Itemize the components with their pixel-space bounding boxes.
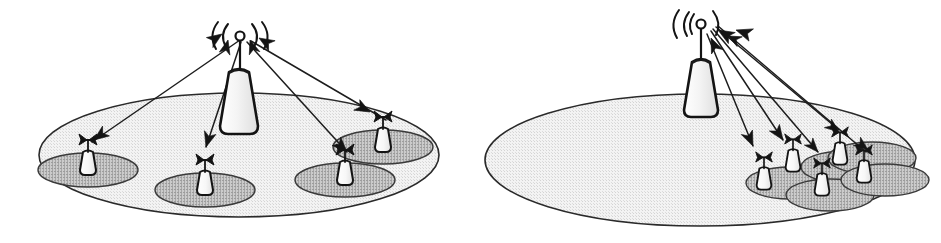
terminal-cone-body [80, 151, 96, 176]
user-terminal-4 [374, 111, 392, 152]
terminal-cone-body [337, 161, 353, 186]
user-terminal-3 [814, 158, 831, 196]
tower-antenna-knob [697, 20, 706, 29]
tower-antenna-knob [236, 32, 245, 41]
user-terminal-1 [756, 152, 773, 190]
terminal-cone-body [757, 167, 772, 190]
figure-canvas [0, 0, 941, 243]
terminal-cone-body [857, 160, 872, 183]
terminal-cone-body [833, 142, 848, 165]
terminal-cone-body [375, 128, 391, 153]
terminal-cone-body [815, 173, 830, 196]
figure-root [0, 0, 941, 243]
terminal-cone-body [197, 171, 213, 196]
terminal-cone-body [786, 149, 801, 172]
user-terminal-4 [832, 127, 849, 165]
spot-beam-4 [841, 164, 929, 196]
user-terminal-5 [856, 145, 873, 183]
user-terminal-2 [785, 134, 802, 172]
user-terminal-2 [196, 154, 214, 195]
user-terminal-3 [336, 144, 354, 185]
user-terminal-1 [79, 134, 97, 175]
